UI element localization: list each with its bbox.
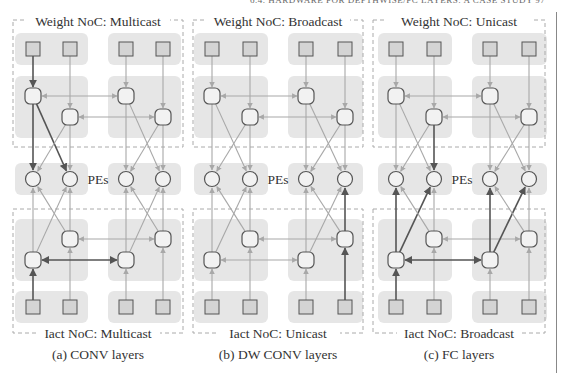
router-group-bg — [288, 76, 363, 138]
weight-noc-label: Weight NoC: Unicast — [401, 14, 517, 29]
panel-c: Weight NoC: UnicastIact NoC: Broadcast(c… — [373, 12, 547, 362]
router-group-bg — [108, 76, 181, 138]
router-node — [337, 231, 353, 247]
router-node — [521, 231, 537, 247]
iact-noc-label: Iact NoC: Broadcast — [404, 326, 514, 341]
router-node — [118, 252, 134, 268]
router-node — [482, 88, 498, 104]
panel-caption: (c) FC layers — [424, 347, 494, 362]
iact-buffer-square — [243, 300, 257, 314]
weight-buffer-square — [156, 42, 170, 56]
router-group-bg — [194, 76, 268, 138]
pe-node — [338, 172, 353, 187]
router-node — [388, 252, 404, 268]
router-group-bg — [288, 219, 363, 281]
pe-node — [389, 172, 404, 187]
pe-node — [522, 172, 537, 187]
router-group-bg — [15, 219, 88, 281]
pes-label: PEs — [87, 172, 108, 187]
pe-node — [427, 172, 442, 187]
noc-diagram: Weight NoC: MulticastIact NoC: Multicast… — [0, 0, 564, 373]
router-node — [155, 231, 171, 247]
router-node — [25, 88, 41, 104]
router-node — [388, 88, 404, 104]
pe-node — [26, 172, 41, 187]
pe-node — [156, 172, 171, 187]
pe-node — [63, 172, 78, 187]
iact-buffer-square — [119, 300, 133, 314]
router-node — [426, 231, 442, 247]
iact-buffer-square — [427, 300, 441, 314]
weight-buffer-square — [243, 42, 257, 56]
router-node — [62, 109, 78, 125]
weight-buffer-square — [427, 42, 441, 56]
pe-node — [119, 172, 134, 187]
weight-noc-label: Weight NoC: Multicast — [35, 14, 161, 29]
weight-buffer-square — [205, 42, 219, 56]
panel-caption: (a) CONV layers — [52, 347, 144, 362]
iact-buffer-square — [26, 300, 40, 314]
weight-buffer-square — [26, 42, 40, 56]
panel-a: Weight NoC: MulticastIact NoC: Multicast… — [13, 12, 183, 362]
pe-node — [299, 172, 314, 187]
router-node — [242, 109, 258, 125]
weight-buffer-square — [389, 42, 403, 56]
weight-buffer-square — [338, 42, 352, 56]
router-group-bg — [194, 219, 268, 281]
router-group-bg — [108, 219, 181, 281]
pe-node — [483, 172, 498, 187]
pes-label: PEs — [267, 172, 288, 187]
router-node — [204, 88, 220, 104]
router-node — [155, 109, 171, 125]
router-node — [204, 252, 220, 268]
iact-noc-label: Iact NoC: Unicast — [229, 326, 327, 341]
panel-caption: (b) DW CONV layers — [219, 347, 337, 362]
pe-node — [205, 172, 220, 187]
router-node — [482, 252, 498, 268]
iact-buffer-square — [299, 300, 313, 314]
iact-buffer-square — [63, 300, 77, 314]
iact-buffer-square — [389, 300, 403, 314]
weight-buffer-square — [522, 42, 536, 56]
router-node — [426, 109, 442, 125]
router-node — [521, 109, 537, 125]
weight-noc-label: Weight NoC: Broadcast — [214, 14, 343, 29]
router-node — [118, 88, 134, 104]
router-node — [298, 252, 314, 268]
pes-label: PEs — [451, 172, 472, 187]
router-group-bg — [378, 219, 452, 281]
router-node — [25, 252, 41, 268]
panel-b: Weight NoC: BroadcastIact NoC: Unicast(b… — [193, 12, 363, 362]
iact-noc-label: Iact NoC: Multicast — [44, 326, 151, 341]
iact-buffer-square — [338, 300, 352, 314]
router-node — [242, 231, 258, 247]
weight-buffer-square — [119, 42, 133, 56]
router-group-bg — [15, 76, 88, 138]
weight-buffer-square — [299, 42, 313, 56]
iact-buffer-square — [156, 300, 170, 314]
iact-buffer-square — [483, 300, 497, 314]
router-node — [298, 88, 314, 104]
iact-buffer-square — [205, 300, 219, 314]
pe-node — [243, 172, 258, 187]
router-group-bg — [472, 76, 547, 138]
router-node — [62, 231, 78, 247]
weight-buffer-square — [483, 42, 497, 56]
router-node — [337, 109, 353, 125]
weight-buffer-square — [63, 42, 77, 56]
router-group-bg — [472, 219, 547, 281]
router-group-bg — [378, 76, 452, 138]
iact-buffer-square — [522, 300, 536, 314]
